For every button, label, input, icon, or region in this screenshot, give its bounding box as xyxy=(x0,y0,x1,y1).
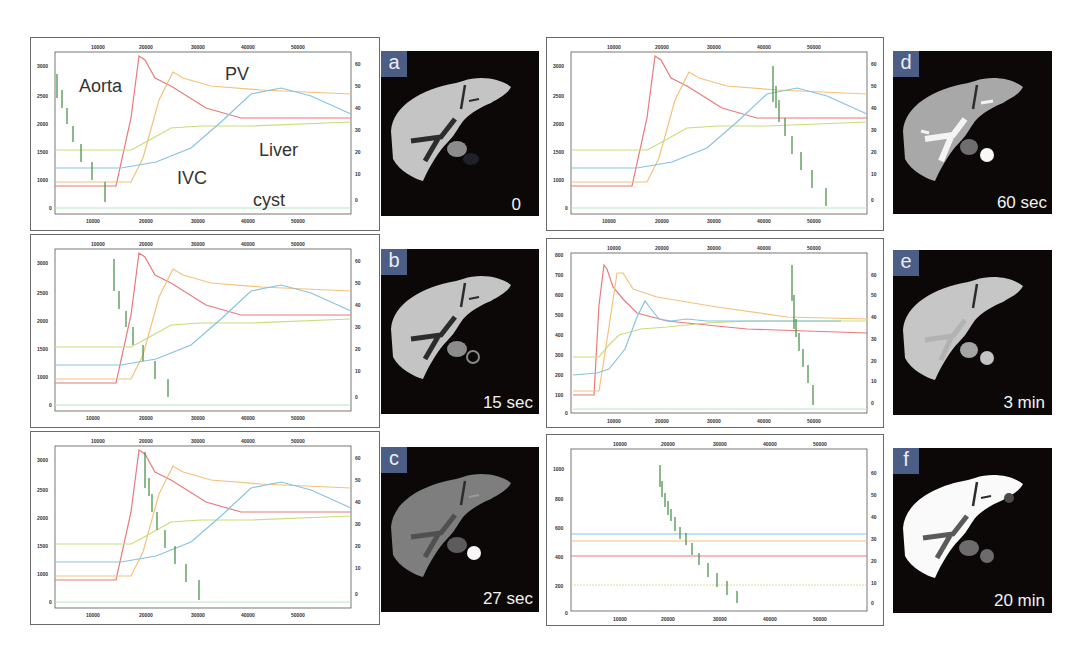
svg-text:50000: 50000 xyxy=(807,418,821,424)
svg-text:1000: 1000 xyxy=(553,466,564,472)
chart-panel-a: 1000020000300004000050000 10000200003000… xyxy=(30,37,380,231)
panel-label-b: b xyxy=(381,249,407,275)
svg-text:10000: 10000 xyxy=(86,612,100,618)
svg-text:40000: 40000 xyxy=(763,616,777,622)
svg-text:30000: 30000 xyxy=(191,218,205,224)
svg-text:20000: 20000 xyxy=(655,44,669,50)
time-intensity-curves-c: 1000020000300004000050000 10000200003000… xyxy=(31,432,381,626)
svg-text:3000: 3000 xyxy=(37,457,48,463)
svg-text:10000: 10000 xyxy=(91,44,105,50)
svg-text:40: 40 xyxy=(871,314,877,320)
time-label-c: 27 sec xyxy=(483,589,534,608)
svg-text:10000: 10000 xyxy=(607,418,621,424)
svg-text:60: 60 xyxy=(355,61,361,67)
svg-text:20000: 20000 xyxy=(655,218,669,224)
svg-text:40000: 40000 xyxy=(757,418,771,424)
svg-text:40: 40 xyxy=(871,105,877,111)
svg-text:40000: 40000 xyxy=(241,44,255,50)
time-label-e: 3 min xyxy=(1003,393,1045,412)
svg-text:0: 0 xyxy=(49,599,52,605)
acquisition-markers xyxy=(792,265,813,405)
svg-text:0: 0 xyxy=(871,400,874,406)
svg-text:30: 30 xyxy=(871,336,877,342)
svg-text:2500: 2500 xyxy=(37,290,48,296)
svg-text:10000: 10000 xyxy=(91,241,105,247)
svg-text:50000: 50000 xyxy=(291,415,305,421)
svg-text:2500: 2500 xyxy=(37,487,48,493)
svg-text:50: 50 xyxy=(871,292,877,298)
svg-text:30000: 30000 xyxy=(713,616,727,622)
svg-text:20000: 20000 xyxy=(139,612,153,618)
svg-text:800: 800 xyxy=(555,496,564,502)
svg-text:10000: 10000 xyxy=(86,415,100,421)
label-aorta: Aorta xyxy=(79,76,123,96)
svg-text:400: 400 xyxy=(555,332,564,338)
svg-text:0: 0 xyxy=(49,402,52,408)
svg-text:1000: 1000 xyxy=(553,177,564,183)
svg-text:10: 10 xyxy=(355,368,361,374)
svg-text:60: 60 xyxy=(871,272,877,278)
svg-text:600: 600 xyxy=(555,525,564,531)
acquisition-markers xyxy=(773,66,826,206)
svg-text:30000: 30000 xyxy=(707,44,721,50)
svg-text:2000: 2000 xyxy=(37,121,48,127)
liver-image-e: 3 min e xyxy=(893,250,1052,415)
svg-text:1000: 1000 xyxy=(37,571,48,577)
svg-text:20: 20 xyxy=(871,558,877,564)
svg-text:30000: 30000 xyxy=(191,44,205,50)
svg-text:20000: 20000 xyxy=(661,616,675,622)
svg-text:30: 30 xyxy=(871,127,877,133)
svg-text:2500: 2500 xyxy=(37,93,48,99)
svg-text:10: 10 xyxy=(355,171,361,177)
svg-text:3000: 3000 xyxy=(553,63,564,69)
svg-text:40000: 40000 xyxy=(757,245,771,251)
svg-text:50000: 50000 xyxy=(807,245,821,251)
panel-label-f: f xyxy=(893,448,919,474)
svg-text:10: 10 xyxy=(871,378,877,384)
svg-text:20000: 20000 xyxy=(661,441,675,447)
svg-text:1500: 1500 xyxy=(37,543,48,549)
svg-text:40: 40 xyxy=(355,302,361,308)
svg-text:60: 60 xyxy=(871,61,877,67)
svg-text:2000: 2000 xyxy=(37,515,48,521)
svg-text:40000: 40000 xyxy=(757,218,771,224)
label-pv: PV xyxy=(225,64,249,84)
liver-image-d: 60 sec d xyxy=(893,51,1052,214)
svg-text:100: 100 xyxy=(555,392,564,398)
svg-text:50: 50 xyxy=(355,83,361,89)
label-liver: Liver xyxy=(259,140,298,160)
svg-text:3000: 3000 xyxy=(37,260,48,266)
svg-text:10000: 10000 xyxy=(607,44,621,50)
svg-text:20: 20 xyxy=(355,543,361,549)
svg-text:200: 200 xyxy=(555,583,564,589)
svg-text:200: 200 xyxy=(555,372,564,378)
svg-text:60: 60 xyxy=(355,258,361,264)
svg-text:30000: 30000 xyxy=(713,441,727,447)
svg-text:20000: 20000 xyxy=(655,418,669,424)
time-intensity-curves-b: 1000020000300004000050000 10000200003000… xyxy=(31,235,381,429)
svg-text:10000: 10000 xyxy=(607,245,621,251)
svg-text:40000: 40000 xyxy=(241,241,255,247)
svg-text:0: 0 xyxy=(565,610,568,616)
svg-text:1000: 1000 xyxy=(37,177,48,183)
svg-text:0: 0 xyxy=(355,394,358,400)
svg-text:300: 300 xyxy=(555,352,564,358)
svg-text:40000: 40000 xyxy=(241,612,255,618)
svg-text:40000: 40000 xyxy=(757,44,771,50)
svg-text:1500: 1500 xyxy=(37,149,48,155)
svg-text:0: 0 xyxy=(355,197,358,203)
svg-text:2000: 2000 xyxy=(37,318,48,324)
svg-text:1000: 1000 xyxy=(37,374,48,380)
svg-text:3000: 3000 xyxy=(37,63,48,69)
panel-label-e: e xyxy=(893,250,919,276)
svg-text:40: 40 xyxy=(355,105,361,111)
time-intensity-curves-e: 1000020000300004000050000 10000200003000… xyxy=(547,239,885,429)
svg-text:1500: 1500 xyxy=(37,346,48,352)
svg-text:40000: 40000 xyxy=(241,218,255,224)
svg-text:50000: 50000 xyxy=(813,441,827,447)
svg-text:600: 600 xyxy=(555,292,564,298)
svg-text:40000: 40000 xyxy=(763,441,777,447)
svg-text:40: 40 xyxy=(871,514,877,520)
time-label-a: 0 xyxy=(512,195,521,214)
svg-text:2500: 2500 xyxy=(553,93,564,99)
